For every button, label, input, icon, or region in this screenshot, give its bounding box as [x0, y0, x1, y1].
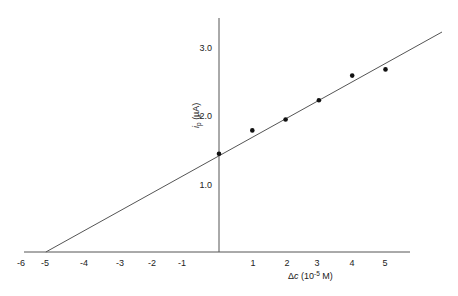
- data-point: [283, 117, 288, 122]
- data-point: [350, 73, 355, 78]
- y-tick-label: 1.0: [199, 180, 212, 190]
- x-tick-label: 2: [284, 258, 289, 268]
- y-tick-label: 2.0: [199, 111, 212, 121]
- y-tick-labels: 1.02.03.0: [199, 43, 212, 190]
- x-tick-label: -6: [17, 258, 25, 268]
- x-tick-label: 1: [250, 258, 255, 268]
- x-tick-labels: -6-5-4-3-2-112345: [17, 258, 388, 268]
- x-tick-label: -2: [148, 258, 156, 268]
- x-tick-label: -4: [80, 258, 88, 268]
- regression-line: [46, 32, 442, 252]
- fit-line: [46, 32, 442, 252]
- data-point: [317, 98, 322, 103]
- data-point: [217, 151, 222, 156]
- y-tick-label: 3.0: [199, 43, 212, 53]
- x-tick-label: 4: [349, 258, 354, 268]
- x-tick-label: 5: [382, 258, 387, 268]
- x-tick-label: -1: [178, 258, 186, 268]
- x-tick-label: -5: [41, 258, 49, 268]
- x-tick-label: 3: [314, 258, 319, 268]
- data-point: [383, 67, 388, 72]
- axes: [24, 18, 410, 252]
- x-tick-label: -3: [116, 258, 124, 268]
- data-point: [250, 128, 255, 133]
- standard-addition-chart: -6-5-4-3-2-112345 1.02.03.0 Δc (10-5 M) …: [0, 0, 458, 296]
- x-axis-label: Δc (10-5 M): [288, 270, 333, 281]
